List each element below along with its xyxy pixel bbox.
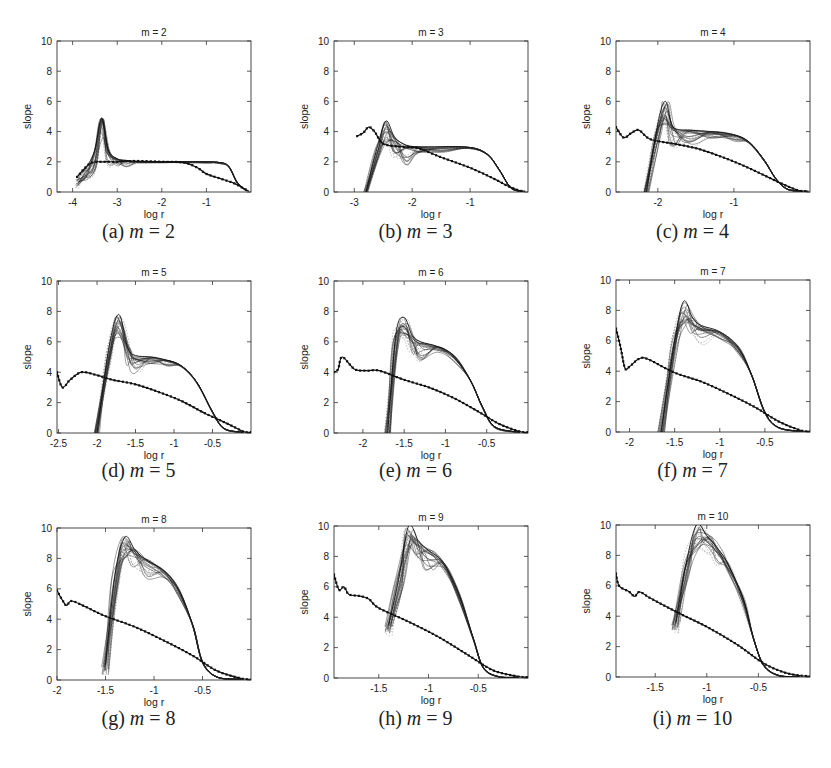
x-tick-label: -4 [68,197,77,208]
subfigure-b: m = 30246810-3-2-1log rslope(b) m = 3 [277,0,554,256]
y-axis-label: slope [298,589,310,614]
caption-equals: = [426,707,437,729]
y-tick-label: 4 [605,611,611,622]
x-tick-label: -1.5 [647,682,665,693]
plot-frame [57,528,251,680]
plot-title: m = 10 [698,511,729,522]
caption-variable: m [130,459,144,481]
y-axis-label: slope [21,591,33,616]
caption-letter: (b) [378,220,401,242]
subfigure-h: m = 90246810-1.5-1-0.5log rslope(h) m = … [277,505,554,761]
x-axis-label: log r [421,694,442,706]
y-tick-label: 10 [600,36,612,47]
x-tick-label: -2 [408,197,417,208]
x-tick-label: -2 [93,438,102,449]
caption-equals: = [149,707,160,729]
plot-title: m = 6 [418,267,444,278]
y-tick-label: 4 [605,366,611,377]
y-tick-label: 10 [318,521,330,532]
caption-equals: = [696,707,707,729]
y-tick-label: 0 [323,187,329,198]
plot-c: m = 40246810-2-1log rslope [554,0,831,256]
y-tick-label: 2 [46,644,52,655]
x-axis-label: log r [421,208,442,220]
caption-equals: = [426,220,437,242]
subfigure-caption: (b) m = 3 [277,220,554,243]
subfigure-d: m = 50246810-2.5-2-1.5-1-0.5log rslope(d… [0,252,277,508]
y-tick-label: 6 [323,336,329,347]
y-tick-label: 4 [46,367,52,378]
x-tick-label: -1 [202,197,211,208]
subfigure-caption: (a) m = 2 [0,220,277,243]
y-tick-label: 4 [323,612,329,623]
caption-letter: (a) [102,220,124,242]
x-tick-label: -1 [170,438,179,449]
subfigure-f: m = 70246810-2-1.5-1-0.5log rslope(f) m … [554,252,831,508]
subfigure-a: m = 20246810-4-3-2-1log rslope(a) m = 2 [0,0,277,256]
plot-a: m = 20246810-4-3-2-1log rslope [0,0,277,256]
y-tick-label: 6 [605,580,611,591]
y-tick-label: 2 [323,642,329,653]
y-tick-label: 2 [46,156,52,167]
y-tick-label: 8 [46,553,52,564]
x-tick-label: -1.5 [370,683,388,694]
y-tick-label: 6 [323,96,329,107]
x-tick-label: -2.5 [50,438,68,449]
subfigure-caption: (h) m = 9 [277,707,554,730]
dotted-curve [77,161,249,191]
subfigure-g: m = 80246810-2-1.5-1-0.5log rslope(g) m … [0,505,277,761]
x-tick-label: -1 [715,437,724,448]
caption-letter: (f) [657,459,677,481]
y-tick-label: 8 [46,306,52,317]
x-tick-label: -1.5 [396,438,414,449]
x-tick-label: -1 [150,685,159,696]
subfigure-e: m = 60246810-2-1.5-1-0.5log rslope(e) m … [277,252,554,508]
caption-value: 5 [166,459,176,481]
y-tick-label: 8 [46,66,52,77]
x-tick-label: -0.5 [478,438,496,449]
y-tick-label: 2 [323,397,329,408]
caption-value: 4 [719,220,729,242]
plot-frame [334,526,528,678]
caption-value: 8 [166,707,176,729]
y-tick-label: 4 [46,614,52,625]
caption-letter: (h) [378,707,401,729]
caption-variable: m [129,220,143,242]
y-axis-label: slope [580,588,592,613]
caption-variable: m [407,707,421,729]
y-axis-label: slope [580,343,592,368]
x-axis-label: log r [144,208,165,220]
caption-value: 9 [443,707,453,729]
caption-equals: = [703,220,714,242]
x-tick-label: -1.5 [666,437,684,448]
subfigure-caption: (g) m = 8 [0,707,277,730]
dotted-curve-markers [76,160,247,191]
bundle-curve [106,536,242,679]
y-tick-label: 0 [46,428,52,439]
plot-title: m = 3 [418,27,444,38]
y-tick-label: 8 [605,66,611,77]
y-tick-label: 0 [323,428,329,439]
y-axis-label: slope [21,104,33,129]
y-tick-label: 10 [41,523,53,534]
plot-title: m = 4 [700,27,726,38]
y-tick-label: 10 [41,36,53,47]
y-tick-label: 0 [323,673,329,684]
caption-variable: m [130,707,144,729]
x-tick-label: -0.5 [470,683,488,694]
subfigure-caption: (e) m = 6 [277,459,554,482]
caption-equals: = [149,459,160,481]
dotted-curve-markers [56,589,248,680]
y-tick-label: 2 [605,641,611,652]
x-tick-label: -2 [653,197,662,208]
dotted-curve [57,590,251,679]
y-tick-label: 0 [605,672,611,683]
y-axis-label: slope [21,344,33,369]
y-tick-label: 4 [605,126,611,137]
dotted-curve-markers [615,573,807,678]
caption-variable: m [683,220,697,242]
dotted-curve-markers [333,357,529,433]
y-tick-label: 10 [600,520,612,531]
y-tick-label: 6 [323,581,329,592]
x-tick-label: -3 [350,197,359,208]
